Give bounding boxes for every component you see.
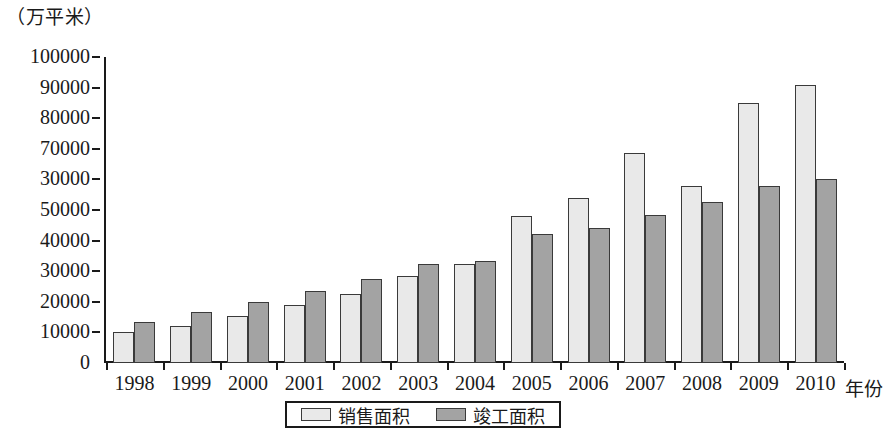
x-axis-tick-mark bbox=[787, 363, 789, 370]
x-axis-tick-mark bbox=[447, 363, 449, 370]
bar-group bbox=[397, 57, 439, 363]
bar-group bbox=[738, 57, 780, 363]
x-axis-tick-mark bbox=[730, 363, 732, 370]
x-axis-label: 2008 bbox=[674, 372, 731, 395]
bar-group bbox=[113, 57, 155, 363]
y-axis-tick-label: 70000 bbox=[40, 137, 90, 160]
y-axis-tick-mark bbox=[92, 87, 100, 89]
x-axis-label: 1998 bbox=[106, 372, 163, 395]
y-axis-tick-label: 10000 bbox=[40, 320, 90, 343]
y-axis-unit-caption: （万平米） bbox=[6, 2, 104, 29]
bar-completed-area bbox=[191, 312, 212, 363]
x-axis-tick-mark bbox=[617, 363, 619, 370]
legend-label: 销售面积 bbox=[338, 402, 410, 428]
y-axis-tick-label: 40000 bbox=[40, 229, 90, 252]
legend-swatch-completed-icon bbox=[436, 408, 466, 421]
bar-completed-area bbox=[589, 228, 610, 363]
x-axis-label: 2010 bbox=[787, 372, 844, 395]
legend-swatch-sales-icon bbox=[301, 408, 331, 421]
bar-sales-area bbox=[227, 316, 248, 363]
bar-group bbox=[454, 57, 496, 363]
x-axis-tick-mark bbox=[844, 363, 846, 370]
x-axis-label: 2006 bbox=[560, 372, 617, 395]
bar-completed-area bbox=[248, 302, 269, 363]
x-axis-label: 2009 bbox=[730, 372, 787, 395]
bar-completed-area bbox=[532, 234, 553, 363]
x-axis-labels: 1998199920002001200220032004200520062007… bbox=[106, 372, 844, 398]
y-axis-tick-label: 30000 bbox=[40, 167, 90, 190]
bar-completed-area bbox=[645, 215, 666, 363]
bar-group bbox=[284, 57, 326, 363]
y-axis-tick-mark bbox=[92, 148, 100, 150]
y-axis-tick-mark bbox=[92, 240, 100, 242]
bar-group bbox=[795, 57, 837, 363]
y-axis-tick-mark bbox=[92, 56, 100, 58]
bar-sales-area bbox=[113, 332, 134, 363]
y-axis-tick-label: 90000 bbox=[40, 76, 90, 99]
y-axis-tick-mark bbox=[92, 270, 100, 272]
x-axis-ticks bbox=[106, 363, 844, 371]
bar-sales-area bbox=[738, 103, 759, 363]
bar-completed-area bbox=[475, 261, 496, 364]
legend-label: 竣工面积 bbox=[473, 402, 545, 428]
bar-completed-area bbox=[134, 322, 155, 363]
y-axis-tick-mark bbox=[92, 117, 100, 119]
y-axis-tick-label: 20000 bbox=[40, 290, 90, 313]
x-axis-tick-mark bbox=[163, 363, 165, 370]
y-axis-tick-label: 30000 bbox=[40, 259, 90, 282]
bar-sales-area bbox=[170, 326, 191, 363]
x-axis-title: 年份 bbox=[845, 374, 883, 401]
x-axis-label: 2005 bbox=[503, 372, 560, 395]
x-axis-tick-mark bbox=[390, 363, 392, 370]
x-axis-label: 2004 bbox=[447, 372, 504, 395]
y-axis-tick-label: 80000 bbox=[40, 106, 90, 129]
bar-completed-area bbox=[816, 179, 837, 363]
bars-layer bbox=[106, 57, 844, 363]
y-axis-tick-mark bbox=[92, 301, 100, 303]
bar-completed-area bbox=[361, 279, 382, 363]
x-axis-tick-mark bbox=[560, 363, 562, 370]
x-axis-tick-mark bbox=[674, 363, 676, 370]
bar-sales-area bbox=[795, 85, 816, 363]
bar-completed-area bbox=[702, 202, 723, 363]
legend-entry: 竣工面积 bbox=[436, 402, 545, 428]
x-axis-label: 1999 bbox=[163, 372, 220, 395]
bar-sales-area bbox=[284, 305, 305, 363]
y-axis-tick-label: 0 bbox=[80, 351, 90, 374]
bar-sales-area bbox=[340, 294, 361, 363]
bar-sales-area bbox=[511, 216, 532, 363]
x-axis-tick-mark bbox=[220, 363, 222, 370]
bar-sales-area bbox=[681, 186, 702, 363]
bar-sales-area bbox=[454, 264, 475, 363]
bar-group bbox=[227, 57, 269, 363]
bar-group bbox=[340, 57, 382, 363]
y-axis: 1000009000080000700003000050000400003000… bbox=[0, 57, 100, 363]
y-axis-tick-label: 50000 bbox=[40, 198, 90, 221]
x-axis-tick-mark bbox=[333, 363, 335, 370]
bar-completed-area bbox=[418, 264, 439, 363]
bar-group bbox=[681, 57, 723, 363]
x-axis-label: 2000 bbox=[220, 372, 277, 395]
bar-completed-area bbox=[305, 291, 326, 363]
bar-sales-area bbox=[624, 153, 645, 363]
chart-legend: 销售面积竣工面积 bbox=[285, 401, 561, 428]
x-axis-tick-mark bbox=[106, 363, 108, 370]
y-axis-tick-mark bbox=[92, 331, 100, 333]
x-axis-label: 2001 bbox=[276, 372, 333, 395]
bar-completed-area bbox=[759, 186, 780, 363]
bar-sales-area bbox=[568, 198, 589, 363]
bar-group bbox=[568, 57, 610, 363]
bar-group bbox=[624, 57, 666, 363]
bar-group bbox=[170, 57, 212, 363]
bar-group bbox=[511, 57, 553, 363]
y-axis-tick-label: 100000 bbox=[30, 45, 90, 68]
x-axis-label: 2003 bbox=[390, 372, 447, 395]
x-axis-tick-mark bbox=[503, 363, 505, 370]
bar-sales-area bbox=[397, 276, 418, 363]
x-axis-label: 2002 bbox=[333, 372, 390, 395]
y-axis-tick-mark bbox=[92, 209, 100, 211]
legend-entry: 销售面积 bbox=[301, 402, 410, 428]
y-axis-tick-mark bbox=[92, 178, 100, 180]
x-axis-tick-mark bbox=[276, 363, 278, 370]
